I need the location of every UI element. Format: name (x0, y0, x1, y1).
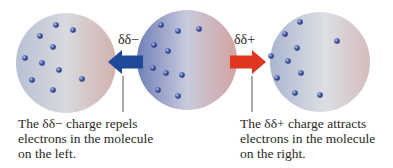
electron-dot (53, 22, 59, 28)
electron-dot (79, 76, 85, 82)
electron-dot (317, 92, 323, 98)
molecule-sphere (16, 13, 116, 113)
repel-caption: The δδ− charge repels electrons in the m… (18, 116, 198, 161)
electron-dot (50, 87, 56, 93)
electron-dot (29, 77, 35, 83)
attract-caption: The δδ+ charge attracts electrons in the… (240, 116, 393, 161)
electron-dot (294, 45, 300, 51)
electron-dot (151, 42, 157, 48)
electron-dot (158, 22, 164, 28)
electron-dot (175, 28, 181, 34)
electron-dot (268, 53, 274, 59)
electron-dot (163, 70, 169, 76)
partial-positive-charge-label: δδ+ (234, 32, 255, 48)
electron-dot (175, 93, 181, 99)
electron-dot (297, 19, 303, 25)
electron-dot (70, 27, 76, 33)
electron-dot (56, 67, 62, 73)
electron-dot (285, 58, 291, 64)
right-molecule (268, 12, 370, 112)
electron-dot (274, 75, 280, 81)
electron-dot (282, 31, 288, 37)
partial-negative-charge-label: δδ− (118, 32, 139, 48)
middle-molecule (137, 10, 237, 110)
electron-dot (150, 65, 156, 71)
electron-dot (298, 70, 304, 76)
electron-dot (196, 26, 202, 32)
electron-dot (22, 55, 28, 61)
left-molecule (16, 13, 116, 113)
electron-dot (37, 33, 43, 39)
electron-dot (155, 87, 161, 93)
electron-dot (179, 72, 185, 78)
electron-dot (292, 90, 298, 96)
molecule-sphere (137, 10, 237, 110)
electron-dot (39, 60, 45, 66)
electron-dot (50, 44, 56, 50)
electron-dot (165, 48, 171, 54)
electron-dot (334, 38, 340, 44)
